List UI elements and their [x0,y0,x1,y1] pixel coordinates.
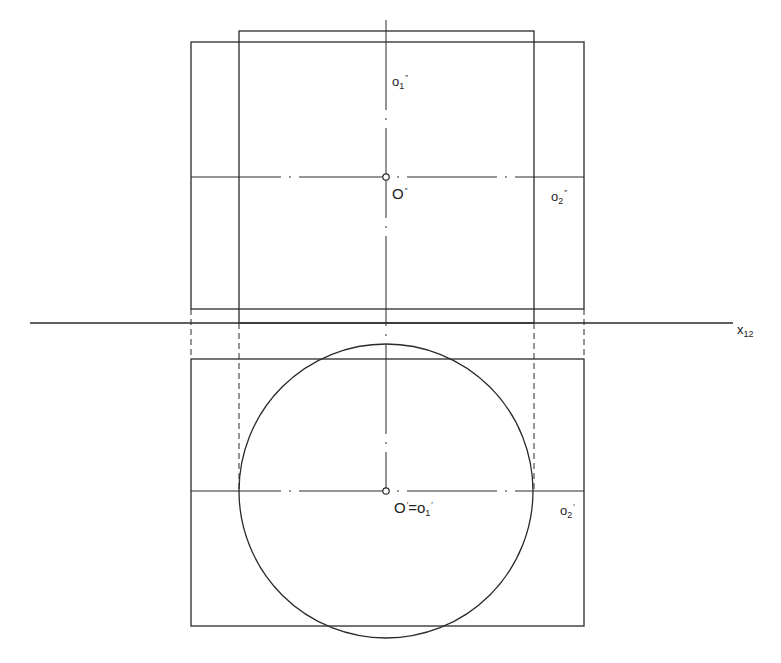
label-o2-top: o2′ [560,503,575,520]
projection-drawing [0,0,781,663]
point-O-top-marker [383,488,389,494]
label-O-top-equals-o1: O′=o1′ [394,500,433,518]
label-O-front: O″ [392,186,408,201]
label-o1-front: o1″ [392,74,408,91]
label-x12: x12 [737,323,754,339]
point-O-front-marker [383,174,389,180]
label-o2-front: o2″ [551,189,567,206]
